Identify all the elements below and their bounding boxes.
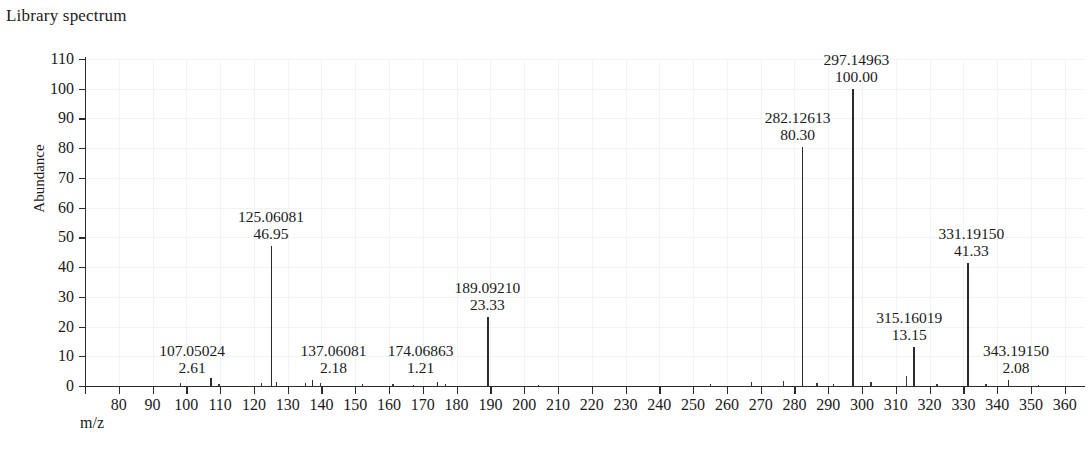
peak-label: 107.050242.61 [159, 342, 225, 376]
gridline-vertical [794, 59, 795, 386]
peak-mz-value: 315.16019 [876, 309, 942, 326]
mass-spectrum-figure: Library spectrum Abundance m/z 010203040… [0, 0, 1090, 450]
x-axis-tick [693, 387, 694, 394]
x-axis-tick [828, 387, 829, 394]
y-axis-tick [79, 59, 86, 60]
y-axis-tick [79, 297, 86, 298]
y-axis-tick-label: 10 [30, 348, 74, 364]
peak-abundance-value: 46.95 [238, 225, 304, 242]
y-axis-tick [79, 89, 86, 90]
x-axis-tick [254, 387, 255, 394]
peak-abundance-value: 2.61 [159, 359, 225, 376]
x-axis-tick [355, 387, 356, 394]
peak-abundance-value: 23.33 [454, 296, 520, 313]
y-axis-tick [79, 356, 86, 357]
x-axis-tick [288, 387, 289, 394]
x-axis-tick [896, 387, 897, 394]
peak-mz-value: 174.06863 [388, 342, 454, 359]
gridline-vertical [693, 59, 694, 386]
peak-label: 189.0921023.33 [454, 279, 520, 313]
gridline-vertical [626, 59, 627, 386]
gridline-horizontal [85, 267, 1085, 268]
x-axis-tick [423, 387, 424, 394]
y-axis-tick-label: 100 [30, 81, 74, 97]
peak-mz-value: 189.09210 [454, 279, 520, 296]
x-axis-tick [727, 387, 728, 394]
y-axis-tick-label: 70 [30, 170, 74, 186]
peak-mz-value: 297.14963 [823, 51, 889, 68]
peak-label: 331.1915041.33 [938, 225, 1004, 259]
y-axis-tick-label: 90 [30, 110, 74, 126]
gridline-vertical [355, 59, 356, 386]
y-axis-tick-label: 80 [30, 140, 74, 156]
peak-mz-value: 331.19150 [938, 225, 1004, 242]
gridline-vertical [862, 59, 863, 386]
peak-abundance-value: 80.30 [765, 126, 831, 143]
peak-mz-value: 343.19150 [983, 342, 1049, 359]
gridline-vertical [457, 59, 458, 386]
x-axis-tick [558, 387, 559, 394]
y-axis-tick [79, 208, 86, 209]
x-axis-tick [862, 387, 863, 394]
gridline-horizontal [85, 59, 1085, 60]
peak-abundance-value: 2.08 [983, 359, 1049, 376]
gridline-horizontal [85, 208, 1085, 209]
peak-bar [852, 89, 853, 386]
x-axis-tick [1065, 387, 1066, 394]
gridline-vertical [186, 59, 187, 386]
x-axis-tick [930, 387, 931, 394]
gridline-vertical [659, 59, 660, 386]
x-axis-tick [963, 387, 964, 394]
y-axis-tick-label: 0 [30, 378, 74, 394]
y-axis-tick [79, 237, 86, 238]
x-axis-tick [1031, 387, 1032, 394]
gridline-vertical [1065, 59, 1066, 386]
gridline-vertical [592, 59, 593, 386]
peak-bar [210, 378, 211, 386]
x-axis-tick [626, 387, 627, 394]
gridline-horizontal [85, 178, 1085, 179]
gridline-vertical [389, 59, 390, 386]
minor-peak [906, 376, 907, 386]
peak-abundance-value: 2.18 [301, 359, 367, 376]
x-axis-tick [761, 387, 762, 394]
peak-abundance-value: 13.15 [876, 326, 942, 343]
gridline-vertical [963, 59, 964, 386]
gridline-vertical [490, 59, 491, 386]
y-axis-tick-label: 50 [30, 229, 74, 245]
peak-mz-value: 282.12613 [765, 109, 831, 126]
gridline-vertical [727, 59, 728, 386]
x-axis-tick [457, 387, 458, 394]
gridline-vertical [220, 59, 221, 386]
peak-mz-value: 125.06081 [238, 208, 304, 225]
y-axis-tick [79, 178, 86, 179]
gridline-vertical [1031, 59, 1032, 386]
gridline-horizontal [85, 148, 1085, 149]
y-axis-tick [79, 327, 86, 328]
x-axis-line [85, 386, 1085, 387]
peak-label: 137.060812.18 [301, 342, 367, 376]
peak-bar [487, 317, 488, 386]
gridline-horizontal [85, 89, 1085, 90]
gridline-vertical [119, 59, 120, 386]
y-axis-tick [79, 118, 86, 119]
peak-bar [967, 263, 968, 386]
x-axis-tick [321, 387, 322, 394]
x-axis-tick-label: 360 [1042, 396, 1088, 414]
peak-label: 297.14963100.00 [823, 51, 889, 85]
y-axis-tick-label: 110 [30, 51, 74, 67]
gridline-vertical [761, 59, 762, 386]
peak-mz-value: 137.06081 [301, 342, 367, 359]
gridline-horizontal [85, 356, 1085, 357]
gridline-vertical [153, 59, 154, 386]
gridline-horizontal [85, 237, 1085, 238]
peak-mz-value: 107.05024 [159, 342, 225, 359]
x-axis-tick [490, 387, 491, 394]
gridline-vertical [828, 59, 829, 386]
gridline-vertical [524, 59, 525, 386]
y-axis-tick [79, 148, 86, 149]
x-axis-tick [153, 387, 154, 394]
gridline-vertical [997, 59, 998, 386]
peak-bar [913, 347, 914, 386]
x-axis-tick [659, 387, 660, 394]
